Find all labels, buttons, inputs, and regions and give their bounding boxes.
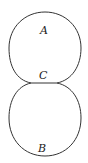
label-c: C: [39, 69, 48, 82]
figure-eight-diagram: A C B: [0, 0, 88, 163]
label-b: B: [37, 142, 46, 155]
label-a: A: [39, 24, 48, 37]
